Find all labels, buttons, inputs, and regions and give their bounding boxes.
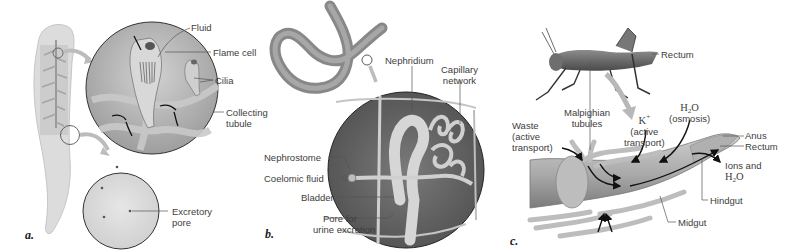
label-pore-line2: urine excretion [313,224,375,235]
label-coelomic-fluid: Coelomic fluid [264,173,324,184]
panel-letter-c: c. [510,234,518,249]
label-collecting-tubule-line2: tubule [226,118,268,129]
illustration-canvas [0,0,799,252]
label-ions-h2o: H2O [725,171,761,182]
panel-letter-b: b. [265,227,274,242]
excretory-pore-magnified-circle [83,166,159,249]
o-symbol: O [691,102,699,113]
label-capillary-network-line2: network [441,75,478,86]
label-midgut: Midgut [678,217,707,228]
label-rectum-top: Rectum [661,49,694,60]
earthworm-illustration [275,6,382,88]
label-capillary-network: Capillary network [441,64,478,86]
label-k-line2: (active [624,126,665,137]
label-capillary-network-line1: Capillary [441,64,478,75]
label-excretory-pore-line2: pore [172,217,212,228]
label-flame-cell: Flame cell [213,47,256,58]
flame-cell-magnified-circle [86,22,218,154]
label-osmosis: (osmosis) [669,113,710,124]
label-bladder: Bladder [301,192,334,203]
label-rectum: Rectum [745,141,778,152]
label-collecting-tubule-line1: Collecting [226,107,268,118]
label-waste-line3: transport) [512,142,553,153]
label-k-ion: K+ [624,112,665,126]
k-symbol: K [639,115,647,126]
label-waste-line2: (active [512,131,553,142]
label-fluid: Fluid [191,22,212,33]
label-nephrostome: Nephrostome [264,152,321,163]
label-hindgut: Hindgut [710,195,743,206]
label-excretory-pore-line1: Excretory [172,206,212,217]
label-ions-and-h2o: Ions and H2O [725,160,761,182]
label-excretory-pore: Excretory pore [172,206,212,228]
label-waste-active-transport: Waste (active transport) [512,120,553,153]
label-h2o: H2O [669,102,710,113]
label-pore-for-urine-excretion: Pore for urine excretion [313,213,375,235]
ions-h-symbol: H [725,171,733,182]
h-symbol: H [680,102,688,113]
label-cilia: Cilia [215,75,233,86]
label-malpighian-line2: tubules [564,118,610,129]
ions-o-symbol: O [736,171,744,182]
k-charge: + [646,113,650,121]
label-pore-line1: Pore for [313,213,375,224]
figure-excretory-systems: Fluid Flame cell Cilia Collecting tubule… [0,0,799,252]
label-k-line3: transport) [624,137,665,148]
label-malpighian-line1: Malpighian [564,107,610,118]
panel-letter-a: a. [25,228,34,243]
label-anus: Anus [745,130,767,141]
label-malpighian-tubules: Malpighian tubules [564,107,610,129]
label-collecting-tubule: Collecting tubule [226,107,268,129]
label-ions-line1: Ions and [725,160,761,171]
label-k-active-transport: K+ (active transport) [624,112,665,148]
label-nephridium: Nephridium [385,55,434,66]
label-h2o-osmosis: H2O (osmosis) [669,102,710,124]
label-waste-line1: Waste [512,120,553,131]
